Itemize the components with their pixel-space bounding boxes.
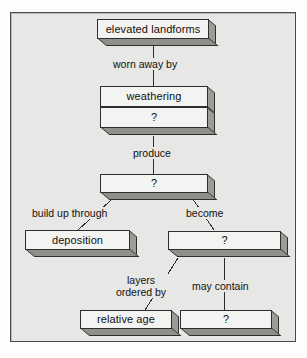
node-bottom-face xyxy=(168,249,291,257)
edge-label-line-2: ordered by xyxy=(110,286,172,298)
node-front-face: ? xyxy=(100,174,208,193)
edge-label-produce: produce xyxy=(131,147,173,159)
node-front-face: weathering xyxy=(100,86,208,107)
node-label: ? xyxy=(151,178,157,189)
node-question-under-weathering[interactable]: ? xyxy=(100,107,208,128)
node-bottom-face xyxy=(80,328,182,336)
node-front-face: relative age xyxy=(80,310,172,329)
node-label: ? xyxy=(221,235,227,246)
node-label: ? xyxy=(151,112,157,123)
edge-label-build-up-through: build up through xyxy=(30,207,109,219)
node-bottom-face xyxy=(180,328,282,336)
node-front-face: elevated landforms xyxy=(97,19,209,39)
edge-label-worn-away-by: worn away by xyxy=(111,58,179,70)
node-front-face: ? xyxy=(100,107,208,128)
node-question-branching[interactable]: ? xyxy=(100,174,208,193)
node-label: relative age xyxy=(97,314,155,325)
edge-label-line-1: layers xyxy=(110,274,172,286)
edge-label-layers-ordered-by: layers ordered by xyxy=(108,274,174,298)
node-question-sedimentary[interactable]: ? xyxy=(168,231,281,250)
node-bottom-face xyxy=(97,38,219,46)
node-front-face: deposition xyxy=(25,230,130,250)
diagram-page: elevated landforms weathering ? ? deposi… xyxy=(0,0,307,358)
node-label: deposition xyxy=(52,235,103,246)
node-front-face: ? xyxy=(180,310,272,329)
node-bottom-face xyxy=(100,127,218,135)
node-front-face: ? xyxy=(168,231,281,250)
node-question-fossils[interactable]: ? xyxy=(180,310,272,329)
node-label: ? xyxy=(223,314,229,325)
node-label: weathering xyxy=(127,91,182,102)
node-weathering[interactable]: weathering xyxy=(100,86,208,107)
node-label: elevated landforms xyxy=(106,24,201,35)
edge-label-may-contain: may contain xyxy=(190,280,251,292)
edge-label-become: become xyxy=(184,207,225,219)
node-bottom-face xyxy=(25,249,140,257)
node-bottom-face xyxy=(100,192,218,200)
node-deposition[interactable]: deposition xyxy=(25,230,130,250)
node-relative-age[interactable]: relative age xyxy=(80,310,172,329)
node-elevated-landforms[interactable]: elevated landforms xyxy=(97,19,209,39)
